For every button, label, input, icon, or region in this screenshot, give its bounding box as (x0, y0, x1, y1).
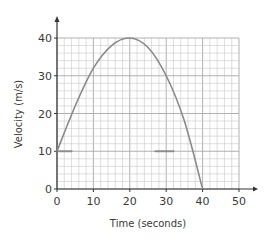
velocity-time-chart: 01020304050010203040 Time (seconds) Velo… (0, 0, 273, 241)
y-axis-label: Velocity (m/s) (13, 80, 24, 149)
x-tick-label: 0 (54, 195, 61, 208)
y-tick-label: 10 (38, 145, 52, 158)
x-tick-label: 20 (123, 195, 137, 208)
x-tick-label: 10 (86, 195, 100, 208)
axes (55, 16, 259, 192)
y-tick-label: 40 (38, 32, 52, 45)
y-tick-label: 20 (38, 108, 52, 121)
y-tick-label: 30 (38, 70, 52, 83)
x-tick-label: 50 (232, 195, 246, 208)
y-tick-label: 0 (45, 183, 52, 196)
x-tick-label: 30 (159, 195, 173, 208)
grid (57, 38, 239, 189)
x-tick-label: 40 (196, 195, 210, 208)
x-axis-label: Time (seconds) (109, 218, 186, 229)
